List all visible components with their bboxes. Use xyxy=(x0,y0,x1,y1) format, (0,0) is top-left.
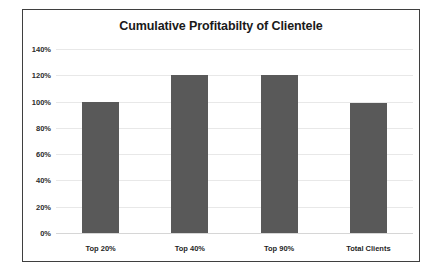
y-axis-tick-label: 120% xyxy=(32,71,51,80)
x-axis-tick-label: Total Clients xyxy=(346,244,390,253)
chart-frame: Cumulative Profitabilty of Clientele 0%2… xyxy=(22,9,420,262)
y-axis-tick-label: 100% xyxy=(32,97,51,106)
bar-series xyxy=(56,49,413,233)
y-axis-tick-label: 0% xyxy=(40,229,51,238)
y-axis-tick-label: 80% xyxy=(36,123,51,132)
bar xyxy=(261,75,298,233)
y-axis-tick-label: 60% xyxy=(36,150,51,159)
y-axis-tick-label: 40% xyxy=(36,176,51,185)
x-axis-tick-label: Top 40% xyxy=(175,244,205,253)
x-axis-tick-label: Top 20% xyxy=(85,244,115,253)
bar xyxy=(171,75,208,233)
y-axis-tick-label: 140% xyxy=(32,45,51,54)
x-axis-tick-label: Top 90% xyxy=(264,244,294,253)
chart-title: Cumulative Profitabilty of Clientele xyxy=(23,19,419,33)
y-axis-tick-label: 20% xyxy=(36,202,51,211)
gridline xyxy=(56,233,413,234)
bar xyxy=(82,102,119,233)
plot-area: 0%20%40%60%80%100%120%140% Top 20%Top 40… xyxy=(56,49,413,233)
bar xyxy=(350,103,387,233)
